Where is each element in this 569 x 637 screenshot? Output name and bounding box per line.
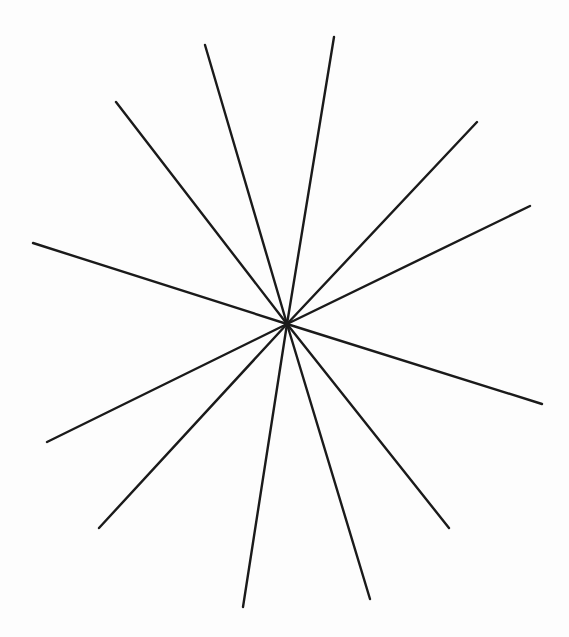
ray-line-10 [287, 324, 449, 528]
center-point [285, 322, 290, 327]
ray-line-6 [33, 243, 287, 324]
ray-line-3 [116, 102, 287, 324]
ray-line-11 [243, 324, 287, 607]
ray-line-12 [287, 324, 370, 599]
ray-line-7 [287, 324, 542, 404]
radiating-lines-figure [0, 0, 569, 637]
ray-line-1 [205, 45, 287, 324]
page [0, 0, 569, 637]
ray-line-5 [287, 206, 530, 324]
line-group [33, 37, 542, 607]
ray-line-8 [47, 324, 287, 442]
ray-line-9 [99, 324, 287, 528]
